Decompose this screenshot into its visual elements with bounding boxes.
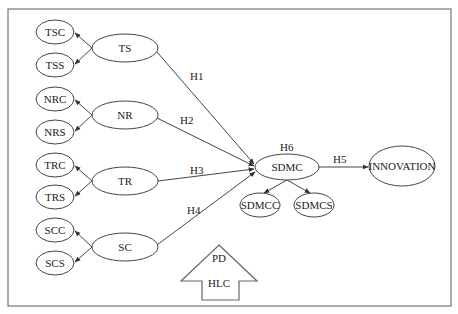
svg-text:NRS: NRS xyxy=(44,126,65,138)
svg-text:NRC: NRC xyxy=(44,93,67,105)
svg-text:TSS: TSS xyxy=(46,59,65,71)
node-nrs: NRS xyxy=(36,120,74,144)
node-nrc: NRC xyxy=(36,87,74,111)
node-tss: TSS xyxy=(36,53,74,77)
label-h6: H6 xyxy=(280,141,294,153)
label-h1: H1 xyxy=(190,70,203,82)
node-tr: TR xyxy=(92,167,158,195)
path-h3 xyxy=(158,169,254,181)
node-sc: SC xyxy=(92,233,158,261)
label-h3: H3 xyxy=(190,164,204,176)
research-model-diagram: H1 H2 H3 H4 H5 H6 TSC TSS NRC NRS TRC TR… xyxy=(0,0,458,314)
path-h2 xyxy=(157,118,254,166)
svg-text:TRC: TRC xyxy=(44,159,65,171)
node-sdmcc: SDMCC xyxy=(240,193,280,217)
node-scs: SCS xyxy=(36,251,74,275)
node-nr: NR xyxy=(92,101,158,129)
node-innovation: INNOVATION xyxy=(368,146,435,186)
node-ts: TS xyxy=(92,34,158,62)
svg-text:SDMC: SDMC xyxy=(271,161,302,173)
control-hlc: HLC xyxy=(208,277,230,289)
svg-text:SDMCC: SDMCC xyxy=(241,199,280,211)
control-pd: PD xyxy=(212,252,226,264)
node-trs: TRS xyxy=(36,185,74,209)
controls-up-arrow: PD HLC xyxy=(181,245,257,300)
label-h4: H4 xyxy=(187,204,201,216)
node-sdmcs: SDMCS xyxy=(294,193,334,217)
svg-text:SCS: SCS xyxy=(45,257,65,269)
svg-text:TRS: TRS xyxy=(45,191,65,203)
svg-text:TSC: TSC xyxy=(45,26,65,38)
path-h1 xyxy=(157,52,254,164)
svg-text:NR: NR xyxy=(117,109,133,121)
label-h5: H5 xyxy=(333,153,347,165)
dimension-edges xyxy=(75,33,310,262)
svg-text:TS: TS xyxy=(119,42,132,54)
svg-text:TR: TR xyxy=(118,175,133,187)
node-tsc: TSC xyxy=(36,20,74,44)
svg-text:SC: SC xyxy=(118,241,131,253)
svg-text:SDMCS: SDMCS xyxy=(295,199,332,211)
svg-text:INNOVATION: INNOVATION xyxy=(368,160,435,172)
node-trc: TRC xyxy=(36,153,74,177)
label-h2: H2 xyxy=(180,114,193,126)
node-scc: SCC xyxy=(36,218,74,242)
svg-text:SCC: SCC xyxy=(45,224,66,236)
node-sdmc: SDMC xyxy=(255,154,319,180)
